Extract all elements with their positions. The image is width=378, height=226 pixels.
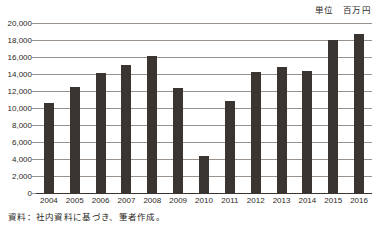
y-tick-mark [32, 176, 36, 177]
y-tick-mark [32, 142, 36, 143]
gridline [36, 91, 372, 92]
y-tick-label: 4,000 [0, 155, 32, 164]
bar-2004 [44, 103, 54, 193]
y-tick-label: 16,000 [0, 53, 32, 62]
bar-2015 [328, 40, 338, 193]
y-tick-mark [32, 159, 36, 160]
y-tick-mark [32, 91, 36, 92]
gridline [36, 125, 372, 126]
y-tick-mark [32, 23, 36, 24]
y-tick-label: 8,000 [0, 121, 32, 130]
gridline [36, 108, 372, 109]
x-tick-label: 2016 [344, 196, 374, 205]
bar-2005 [70, 87, 80, 193]
y-tick-mark [32, 125, 36, 126]
y-tick-label: 14,000 [0, 70, 32, 79]
y-tick-mark [32, 57, 36, 58]
plot-area: 20,00018,00016,00014,00012,00010,0008,00… [36, 23, 372, 193]
gridline [36, 23, 372, 24]
bar-2013 [277, 67, 287, 193]
bar-2009 [173, 88, 183, 193]
gridline [36, 193, 372, 194]
y-tick-label: 12,000 [0, 87, 32, 96]
source-note: 資料：社内資料に基づき、筆者作成。 [8, 210, 165, 222]
y-tick-mark [32, 108, 36, 109]
y-tick-mark [32, 193, 36, 194]
y-tick-label: 6,000 [0, 138, 32, 147]
bar-2010 [199, 156, 209, 193]
bar-2008 [147, 56, 157, 193]
bar-2014 [302, 71, 312, 193]
unit-caption: 単位 百万円 [315, 3, 371, 15]
bar-2006 [96, 73, 106, 193]
x-axis-tick-labels: 2004200520062007200820092010201120122013… [36, 196, 372, 210]
bar-2016 [354, 34, 364, 193]
y-tick-label: 2,000 [0, 172, 32, 181]
y-tick-mark [32, 74, 36, 75]
y-tick-label: 18,000 [0, 36, 32, 45]
bar-2007 [121, 65, 131, 193]
bar-2011 [225, 101, 235, 193]
gridline [36, 57, 372, 58]
gridline [36, 74, 372, 75]
bar-chart-figure: 単位 百万円 20,00018,00016,00014,00012,00010,… [0, 0, 378, 226]
y-tick-label: 0 [0, 189, 32, 198]
y-tick-label: 10,000 [0, 104, 32, 113]
y-tick-mark [32, 40, 36, 41]
y-tick-label: 20,000 [0, 19, 32, 28]
bar-2012 [251, 72, 261, 193]
gridline [36, 40, 372, 41]
gridline [36, 142, 372, 143]
